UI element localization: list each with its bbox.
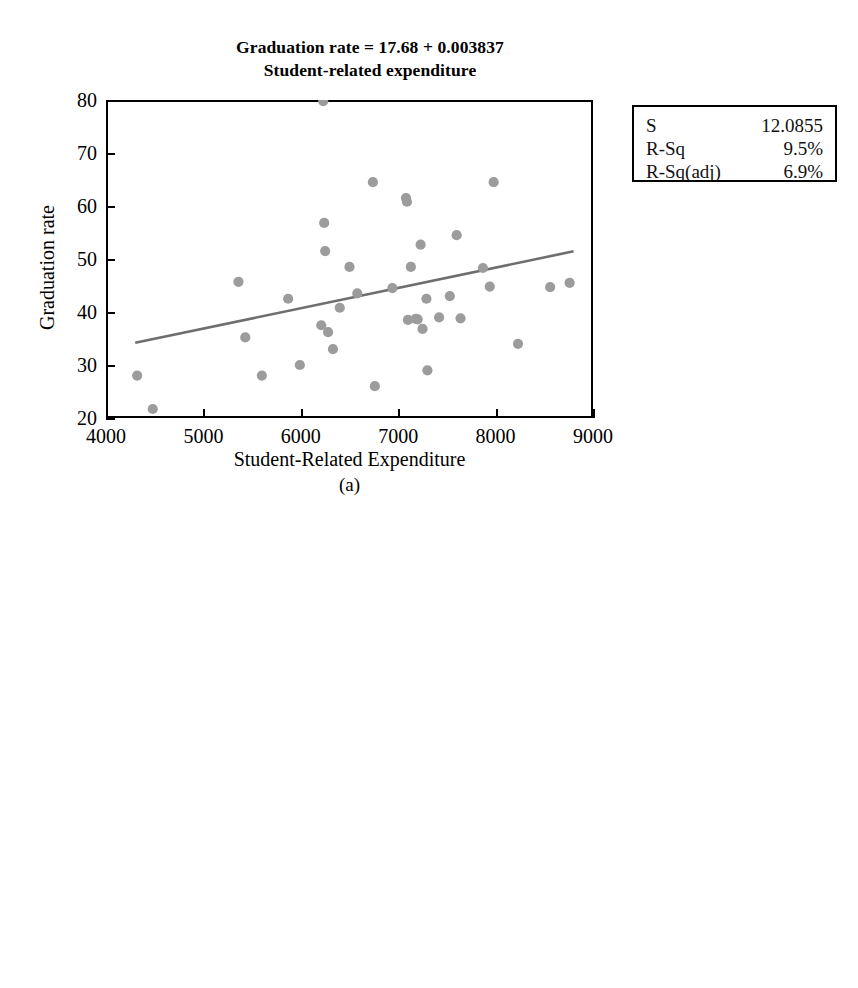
data-point: [387, 283, 397, 293]
data-point: [545, 282, 555, 292]
chart-title-a-line1: Graduation rate = 17.68 + 0.003837: [120, 36, 620, 59]
panel-b: Graduation rate = −70.69 + 0.1127 median…: [0, 494, 858, 988]
y-tick-a-60: [106, 206, 115, 208]
y-tick-a-70: [106, 153, 115, 155]
data-point: [452, 230, 462, 240]
data-point: [295, 360, 305, 370]
data-point: [402, 197, 412, 207]
y-tick-a-30: [106, 365, 115, 367]
data-point: [257, 371, 267, 381]
stats-row: R-Sq9.5%: [646, 137, 823, 160]
data-point: [233, 277, 243, 287]
data-point: [344, 262, 354, 272]
y-axis-title-a: Graduation rate: [36, 205, 59, 330]
data-point: [478, 263, 488, 273]
data-point: [513, 339, 523, 349]
data-point: [323, 327, 333, 337]
x-tick-a-6000: [301, 409, 303, 418]
panel-a: Graduation rate = 17.68 + 0.003837 Stude…: [0, 0, 858, 500]
data-point: [421, 294, 431, 304]
stats-value: 6.9%: [783, 160, 823, 183]
data-point: [370, 381, 380, 391]
x-tick-label-a-9000: 9000: [573, 425, 613, 447]
stats-key: R-Sq: [646, 137, 685, 160]
data-point: [328, 344, 338, 354]
data-point: [319, 218, 329, 228]
data-point: [489, 177, 499, 187]
data-point: [565, 278, 575, 288]
y-tick-a-80: [106, 100, 115, 102]
data-point: [318, 100, 328, 106]
data-point: [283, 294, 293, 304]
figure-two-scatterplots: Graduation rate = 17.68 + 0.003837 Stude…: [0, 0, 858, 988]
stats-value: 12.0855: [761, 114, 823, 137]
y-tick-label-a-30: 30: [77, 355, 97, 375]
stats-row: S12.0855: [646, 114, 823, 137]
data-point: [240, 332, 250, 342]
y-tick-a-20: [106, 418, 115, 420]
y-tick-label-a-70: 70: [77, 143, 97, 163]
y-tick-label-a-80: 80: [77, 90, 97, 110]
y-tick-a-40: [106, 312, 115, 314]
x-axis-title-a: Student-Related Expenditure: [106, 448, 593, 471]
data-point: [413, 314, 423, 324]
data-point: [132, 371, 142, 381]
data-point: [455, 313, 465, 323]
x-tick-a-9000: [593, 409, 595, 418]
stats-value: 9.5%: [783, 137, 823, 160]
data-point: [434, 312, 444, 322]
data-point: [485, 281, 495, 291]
x-tick-a-4000: [106, 409, 108, 418]
stats-box-a: S12.0855R-Sq9.5%R-Sq(adj)6.9%: [632, 105, 837, 182]
x-tick-a-7000: [398, 409, 400, 418]
data-point: [320, 246, 330, 256]
stats-key: R-Sq(adj): [646, 160, 721, 183]
data-point: [368, 177, 378, 187]
panel-caption-a: (a): [106, 474, 593, 496]
data-point: [416, 240, 426, 250]
chart-title-a: Graduation rate = 17.68 + 0.003837 Stude…: [120, 36, 620, 82]
data-point: [422, 365, 432, 375]
x-tick-label-a-5000: 5000: [183, 425, 223, 447]
y-tick-a-50: [106, 259, 115, 261]
stats-key: S: [646, 114, 657, 137]
x-tick-a-8000: [496, 409, 498, 418]
x-tick-label-a-8000: 8000: [476, 425, 516, 447]
data-point: [352, 288, 362, 298]
scatter-canvas-a: [106, 100, 593, 418]
data-point: [335, 303, 345, 313]
y-tick-label-a-60: 60: [77, 196, 97, 216]
data-point: [417, 324, 427, 334]
y-tick-label-a-50: 50: [77, 249, 97, 269]
chart-title-a-line2: Student-related expenditure: [120, 59, 620, 82]
x-tick-label-a-7000: 7000: [378, 425, 418, 447]
data-point: [148, 404, 158, 414]
y-tick-label-a-40: 40: [77, 302, 97, 322]
stats-row: R-Sq(adj)6.9%: [646, 160, 823, 183]
plot-area-a: 20304050607080 400050006000700080009000: [106, 100, 593, 418]
data-point: [406, 262, 416, 272]
data-point: [445, 291, 455, 301]
x-tick-label-a-4000: 4000: [86, 425, 126, 447]
x-tick-label-a-6000: 6000: [281, 425, 321, 447]
x-tick-a-5000: [203, 409, 205, 418]
